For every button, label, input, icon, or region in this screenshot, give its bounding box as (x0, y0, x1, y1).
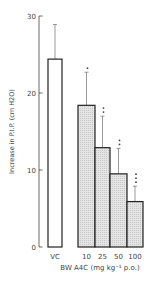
y-tick-label: 0 (32, 244, 36, 252)
x-tick-label: 10 (82, 253, 91, 261)
bar-100 (127, 202, 143, 247)
y-tick-label: 10 (27, 167, 36, 175)
significance-marker (119, 144, 121, 146)
x-tick-label: 100 (128, 253, 141, 261)
x-tick-label: VC (50, 253, 60, 261)
significance-marker (135, 181, 137, 183)
y-axis-label: Increase in P.I.P. (cm H2O) (8, 89, 16, 174)
bar-25 (95, 148, 110, 247)
significance-marker (119, 140, 121, 142)
significance-marker (135, 177, 137, 179)
x-axis-label: BW A4C (mg kg⁻¹ p.o.) (60, 264, 140, 272)
y-axis: 0102030 (27, 13, 42, 252)
y-tick-label: 20 (27, 90, 36, 98)
significance-marker (103, 111, 105, 113)
x-tick-label: 25 (98, 253, 107, 261)
x-tick-label: 50 (114, 253, 123, 261)
significance-marker (87, 67, 89, 69)
bar-VC (48, 59, 62, 247)
bars (48, 24, 143, 247)
significance-marker (135, 173, 137, 175)
bar-50 (110, 174, 127, 247)
y-tick-label: 30 (27, 13, 36, 21)
significance-marker (103, 107, 105, 109)
bar-chart: 0102030 VC102550100BW A4C (mg kg⁻¹ p.o.)… (0, 0, 152, 285)
bar-10 (78, 105, 95, 247)
